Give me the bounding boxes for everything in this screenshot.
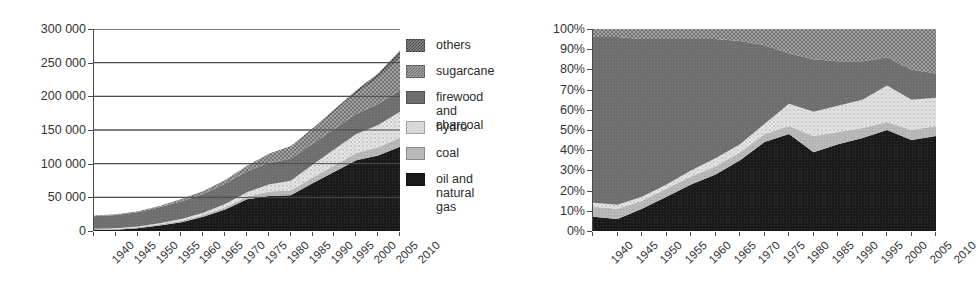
x-tick-label: 1995: [350, 239, 377, 266]
chart-absolute-energy-supply: 050 000100 000150 000200 000250 000300 0…: [0, 0, 470, 293]
legend-item-others[interactable]: others: [406, 38, 471, 52]
y-tick-label: 30%: [560, 164, 585, 176]
y-tick-label: 50 000: [48, 191, 86, 203]
y-tick-mark: [587, 49, 592, 50]
y-tick-mark: [587, 170, 592, 171]
x-tick-label: 1945: [131, 239, 158, 266]
y-tick-label: 150 000: [41, 124, 86, 136]
y-tick-label: 10%: [560, 205, 585, 217]
x-tick-mark: [788, 232, 789, 236]
legend-item-coal[interactable]: coal: [406, 146, 459, 160]
x-tick-label: 1940: [608, 239, 635, 266]
x-tick-mark: [224, 232, 225, 236]
y-tick-mark: [88, 63, 93, 64]
y-tick-label: 40%: [560, 144, 585, 156]
x-tick-mark: [641, 232, 642, 236]
x-tick-label: 2000: [372, 239, 399, 266]
x-tick-mark: [911, 232, 912, 236]
y-tick-label: 0: [79, 225, 86, 237]
x-tick-mark: [115, 232, 116, 236]
legend-item-hydro[interactable]: hydro: [406, 120, 467, 134]
x-tick-label: 1965: [731, 239, 758, 266]
y-tick-mark: [587, 110, 592, 111]
x-tick-mark: [764, 232, 765, 236]
x-tick-mark: [837, 232, 838, 236]
x-tick-label: 2005: [394, 239, 421, 266]
x-tick-mark: [202, 232, 203, 236]
x-tick-label: 1985: [306, 239, 333, 266]
x-axis-labels-percentage: 1940194519501955196019651970197519801985…: [480, 0, 975, 70]
y-tick-mark: [587, 130, 592, 131]
x-tick-label: 2000: [902, 239, 929, 266]
x-tick-mark: [159, 232, 160, 236]
x-tick-mark: [93, 232, 94, 236]
x-tick-mark: [290, 232, 291, 236]
x-tick-mark: [355, 232, 356, 236]
y-tick-mark: [88, 96, 93, 97]
y-tick-mark: [587, 90, 592, 91]
y-tick-mark: [587, 191, 592, 192]
x-tick-label: 1945: [633, 239, 660, 266]
x-tick-label: 1950: [657, 239, 684, 266]
y-tick-label: 70%: [560, 84, 585, 96]
x-tick-mark: [935, 232, 936, 236]
y-tick-label: 60%: [560, 104, 585, 116]
x-tick-label: 2010: [951, 239, 978, 266]
x-tick-mark: [592, 232, 593, 236]
x-tick-mark: [813, 232, 814, 236]
x-tick-mark: [617, 232, 618, 236]
y-tick-mark: [587, 150, 592, 151]
x-tick-mark: [377, 232, 378, 236]
legend-label-oil: oil and natural gas: [436, 172, 474, 214]
y-tick-label: 50%: [560, 124, 585, 136]
legend-swatch-firewood: [406, 91, 425, 104]
y-tick-mark: [88, 130, 93, 131]
x-tick-label: 2005: [927, 239, 954, 266]
x-tick-mark: [886, 232, 887, 236]
x-tick-label: 1955: [682, 239, 709, 266]
y-tick-mark: [587, 29, 592, 30]
x-tick-label: 1990: [328, 239, 355, 266]
x-tick-label: 1975: [262, 239, 289, 266]
x-tick-label: 1965: [219, 239, 246, 266]
x-tick-label: 1960: [197, 239, 224, 266]
x-tick-mark: [666, 232, 667, 236]
x-tick-label: 1950: [153, 239, 180, 266]
legend-label-others: others: [436, 38, 471, 52]
x-axis-labels-absolute: 1940194519501955196019651970197519801985…: [0, 0, 439, 70]
y-tick-label: 0%: [567, 225, 585, 237]
x-tick-label: 2010: [415, 239, 442, 266]
x-tick-label: 1980: [804, 239, 831, 266]
x-tick-label: 1990: [853, 239, 880, 266]
x-tick-mark: [246, 232, 247, 236]
x-tick-label: 1960: [706, 239, 733, 266]
x-tick-label: 1970: [755, 239, 782, 266]
x-tick-mark: [180, 232, 181, 236]
x-tick-mark: [715, 232, 716, 236]
legend-swatch-oil: [406, 173, 425, 186]
legend-item-oil[interactable]: oil and natural gas: [406, 172, 474, 214]
y-tick-mark: [88, 231, 93, 232]
x-tick-label: 1995: [878, 239, 905, 266]
legend-swatch-others: [406, 39, 425, 52]
y-tick-mark: [587, 69, 592, 70]
y-tick-mark: [88, 197, 93, 198]
chart-percentage-energy-share: 0%10%20%30%40%50%60%70%80%90%100% 194019…: [480, 0, 961, 293]
legend-swatch-hydro: [406, 121, 425, 134]
y-tick-mark: [587, 211, 592, 212]
legend-label-hydro: hydro: [436, 120, 467, 134]
x-tick-mark: [690, 232, 691, 236]
x-tick-mark: [312, 232, 313, 236]
y-tick-mark: [88, 29, 93, 30]
legend-label-coal: coal: [436, 146, 459, 160]
x-tick-label: 1975: [780, 239, 807, 266]
y-tick-label: 200 000: [41, 90, 86, 102]
legend-swatch-sugarcane: [406, 65, 425, 78]
x-tick-mark: [399, 232, 400, 236]
y-tick-label: 100 000: [41, 158, 86, 170]
x-tick-label: 1985: [829, 239, 856, 266]
x-tick-label: 1940: [109, 239, 136, 266]
x-tick-label: 1955: [175, 239, 202, 266]
x-tick-mark: [268, 232, 269, 236]
